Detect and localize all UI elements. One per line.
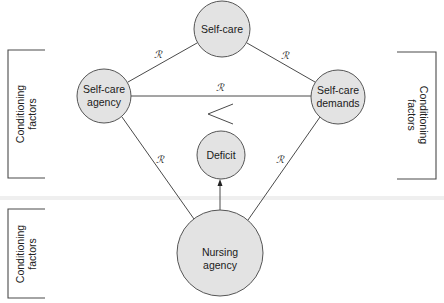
node-self-care-demands: Self-care demands (311, 70, 365, 124)
relation-label: ℛ (154, 49, 163, 60)
conditioning-factors-left-top: Conditioning factors (8, 50, 45, 178)
bracket-label: Conditioning (14, 225, 26, 284)
relation-label: ℛ (156, 154, 165, 165)
background-band (0, 196, 444, 200)
conditioning-factors-right: Conditioning factors (397, 52, 436, 179)
edge-agency-selfcare (128, 43, 197, 82)
node-label: Self-care (201, 23, 243, 35)
node-self-care: Self-care (194, 1, 250, 57)
node-label: Self-care (83, 83, 125, 95)
bracket-label: factors (406, 99, 418, 131)
bracket-label: factors (26, 98, 38, 130)
node-label: demands (316, 97, 359, 109)
node-label: agency (203, 259, 238, 271)
node-deficit: Deficit (197, 131, 245, 179)
self-care-deficit-diagram: ℛ ℛ ℛ ℛ ℛ Self-care Self-care agency Sel… (0, 0, 444, 303)
relation-label: ℛ (276, 154, 285, 165)
less-than-symbol (208, 104, 233, 124)
node-nursing-agency: Nursing agency (177, 210, 263, 296)
node-label: Nursing (202, 246, 238, 258)
bracket-label: Conditioning (418, 86, 430, 145)
node-label: Self-care (317, 84, 359, 96)
arrow-head-icon (218, 179, 223, 186)
edge-agency-nursing (122, 117, 194, 219)
node-self-care-agency: Self-care agency (77, 69, 131, 123)
relation-label: ℛ (216, 82, 225, 93)
edge-demands-nursing (248, 117, 320, 220)
edge-selfcare-demands (247, 43, 315, 82)
relation-label: ℛ (281, 50, 290, 61)
conditioning-factors-left-bottom: Conditioning factors (8, 209, 45, 298)
node-label: agency (87, 96, 122, 108)
node-label: Deficit (206, 149, 235, 161)
bracket-label: factors (26, 238, 38, 270)
bracket-label: Conditioning (14, 85, 26, 144)
